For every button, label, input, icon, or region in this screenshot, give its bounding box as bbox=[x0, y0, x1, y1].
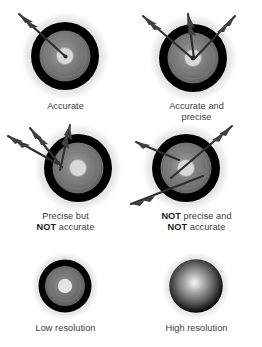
target-precise-not-accurate-graphic bbox=[0, 120, 131, 212]
target-cell-low-resolution bbox=[0, 252, 131, 324]
target-low-resolution-graphic bbox=[0, 252, 131, 324]
caption-not-precise-rest1: precise and bbox=[181, 211, 232, 221]
target-rings bbox=[34, 124, 122, 212]
caption-precise-not-accurate-line1: Precise but bbox=[42, 211, 89, 221]
target-rings bbox=[31, 252, 99, 320]
caption-accurate-line1: Accurate bbox=[47, 101, 84, 111]
caption-accurate: Accurate bbox=[0, 101, 131, 112]
target-high-resolution-graphic bbox=[131, 252, 262, 324]
caption-precise-not-accurate-bold: NOT bbox=[37, 222, 57, 232]
caption-high-resolution: High resolution bbox=[131, 323, 262, 334]
caption-precise-not-accurate-rest: accurate bbox=[56, 222, 94, 232]
caption-not-precise-not-accurate: NOT precise and NOT accurate bbox=[131, 211, 262, 232]
target-accurate-and-precise-graphic bbox=[131, 10, 262, 102]
target-cell-high-resolution bbox=[131, 252, 262, 324]
target-cell-accurate-and-precise bbox=[131, 10, 262, 102]
caption-precise-not-accurate: Precise but NOT accurate bbox=[0, 211, 131, 232]
accuracy-precision-diagram: Accurate bbox=[0, 0, 262, 347]
target-rings bbox=[162, 252, 230, 320]
caption-not-precise-rest2: accurate bbox=[187, 222, 225, 232]
target-cell-not-precise-not-accurate bbox=[131, 120, 262, 212]
target-accurate-graphic bbox=[0, 10, 131, 102]
caption-accurate-and-precise-line1: Accurate and bbox=[169, 101, 224, 111]
caption-low-resolution-line1: Low resolution bbox=[36, 323, 96, 333]
target-not-precise-not-accurate-graphic bbox=[131, 120, 262, 212]
caption-accurate-and-precise: Accurate and precise bbox=[131, 101, 262, 122]
target-cell-accurate bbox=[0, 10, 131, 102]
target-cell-precise-not-accurate bbox=[0, 120, 131, 212]
caption-not-precise-bold2: NOT bbox=[168, 222, 188, 232]
caption-high-resolution-line1: High resolution bbox=[165, 323, 227, 333]
caption-low-resolution: Low resolution bbox=[0, 323, 131, 334]
caption-not-precise-bold1: NOT bbox=[161, 211, 181, 221]
